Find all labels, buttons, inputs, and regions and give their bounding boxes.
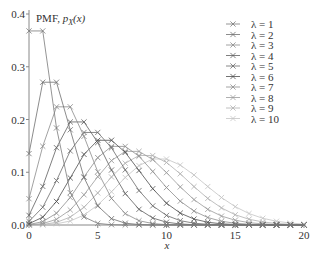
legend-item: λ = 10 (226, 113, 280, 125)
x-marker (178, 171, 183, 176)
x-marker (40, 184, 45, 189)
x-marker (40, 215, 45, 220)
x-marker (205, 215, 210, 220)
x-marker (191, 209, 196, 214)
x-marker (68, 148, 73, 153)
x-marker (191, 197, 196, 202)
x-marker (68, 175, 73, 180)
x-marker (54, 217, 59, 222)
x-marker (81, 205, 86, 210)
y-axis-annotation: PMF, pX(x) (36, 12, 86, 27)
x-marker (219, 195, 224, 200)
x-marker (136, 163, 141, 168)
x-marker (178, 211, 183, 216)
poisson-pmf-chart: 0.00.10.20.30.405101520 λ = 1λ = 2λ = 3λ… (0, 0, 320, 256)
x-marker (150, 203, 155, 208)
x-marker (164, 160, 169, 165)
x-axis-label: x (164, 239, 170, 251)
x-marker (150, 215, 155, 220)
series-lambda-5 (26, 130, 306, 228)
y-tick-label: 0.2 (11, 114, 25, 126)
legend-label: λ = 10 (251, 113, 280, 125)
x-marker (40, 144, 45, 149)
series-lambda-10 (26, 156, 306, 227)
x-marker (178, 184, 183, 189)
y-tick-label: 0.1 (11, 166, 25, 178)
x-marker (109, 167, 114, 172)
x-marker (246, 211, 251, 216)
x-tick-label: 20 (299, 229, 311, 241)
x-marker (205, 196, 210, 201)
x-marker (205, 184, 210, 189)
x-marker (123, 161, 128, 166)
x-marker (123, 167, 128, 172)
x-marker (81, 152, 86, 157)
x-marker (178, 162, 183, 167)
x-marker (136, 168, 141, 173)
x-marker (191, 172, 196, 177)
legend: λ = 1λ = 2λ = 3λ = 4λ = 5λ = 6λ = 7λ = 8… (226, 18, 280, 125)
x-marker (40, 205, 45, 210)
x-marker (136, 207, 141, 212)
x-marker (81, 175, 86, 180)
x-marker (109, 216, 114, 221)
x-marker (95, 169, 100, 174)
x-marker (233, 204, 238, 209)
x-marker (164, 170, 169, 175)
x-tick-label: 5 (95, 229, 101, 241)
x-marker (123, 191, 128, 196)
x-marker (68, 127, 73, 132)
x-marker (205, 207, 210, 212)
x-marker (54, 211, 59, 216)
x-marker (164, 185, 169, 190)
x-marker (54, 199, 59, 204)
x-marker (233, 212, 238, 217)
x-marker (95, 155, 100, 160)
x-marker (68, 207, 73, 212)
x-marker (150, 169, 155, 174)
x-tick-label: 15 (230, 229, 242, 241)
x-marker (123, 175, 128, 180)
x-marker (81, 192, 86, 197)
x-marker (54, 178, 59, 183)
x-marker (136, 188, 141, 193)
x-marker (123, 211, 128, 216)
x-marker (81, 134, 86, 139)
x-marker (109, 174, 114, 179)
y-tick-label: 0.0 (11, 219, 25, 231)
x-marker (109, 158, 114, 163)
y-tick-label: 0.4 (11, 8, 25, 20)
x-marker (164, 213, 169, 218)
x-marker (95, 190, 100, 195)
x-marker (54, 145, 59, 150)
x-marker (109, 189, 114, 194)
x-marker (68, 214, 73, 219)
x-marker (191, 184, 196, 189)
x-tick-label: 0 (26, 229, 32, 241)
y-tick-label: 0.3 (11, 61, 25, 73)
x-marker (109, 196, 114, 201)
x-marker (178, 199, 183, 204)
x-marker (150, 186, 155, 191)
x-marker (164, 201, 169, 206)
x-marker (219, 205, 224, 210)
x-marker (219, 213, 224, 218)
